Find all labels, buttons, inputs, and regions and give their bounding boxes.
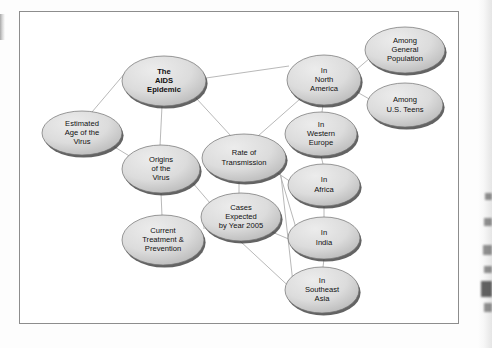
- node-label-estimated-age: Virus: [73, 137, 90, 146]
- connector-origins-of-virus-to-current-treatment: [161, 193, 162, 216]
- scan-smudge-6: [484, 303, 492, 312]
- node-label-in-southeast-asia: Asia: [315, 294, 331, 303]
- node-cases-expected[interactable]: CasesExpectedby Year 2005: [201, 193, 283, 244]
- node-label-origins-of-virus: Virus: [152, 173, 169, 182]
- node-among-us-teens[interactable]: AmongU.S. Teens: [367, 83, 445, 130]
- concept-map-canvas: TheAIDSEpidemicEstimatedAge of theVirusO…: [0, 0, 492, 348]
- node-label-in-india: In: [321, 228, 327, 237]
- node-label-cases-expected: by Year 2005: [219, 221, 263, 230]
- node-estimated-age[interactable]: EstimatedAge of theVirus: [42, 111, 124, 158]
- connector-aids-epidemic-to-rate-of-transmission: [196, 98, 231, 136]
- connector-in-north-america-to-among-general: [356, 58, 370, 70]
- node-label-estimated-age: Estimated: [65, 119, 99, 128]
- node-label-among-us-teens: Among: [393, 95, 417, 104]
- scan-edge-shadow-left: [0, 14, 5, 40]
- node-label-origins-of-virus: Origins: [149, 155, 173, 164]
- node-label-in-india: India: [316, 238, 333, 247]
- node-label-in-southeast-asia: In: [319, 276, 325, 285]
- node-in-africa[interactable]: InAfrica: [288, 164, 362, 209]
- node-label-rate-of-transmission: Rate of: [232, 148, 257, 157]
- node-label-current-treatment: Prevention: [145, 244, 181, 253]
- node-label-in-north-america: In: [321, 66, 327, 75]
- node-label-in-africa: In: [321, 175, 327, 184]
- node-in-southeast-asia[interactable]: InSoutheastAsia: [285, 267, 361, 316]
- node-in-india[interactable]: InIndia: [288, 217, 362, 262]
- node-label-in-western-europe: Europe: [309, 138, 334, 147]
- scan-smudge-2: [484, 218, 492, 226]
- node-label-in-southeast-asia: Southeast: [305, 285, 340, 294]
- node-label-estimated-age: Age of the: [65, 128, 100, 137]
- diagram-page: TheAIDSEpidemicEstimatedAge of theVirusO…: [0, 0, 492, 348]
- node-label-in-western-europe: Western: [307, 129, 335, 138]
- connector-aids-epidemic-to-origins-of-virus: [160, 106, 162, 146]
- concept-nodes: TheAIDSEpidemicEstimatedAge of theVirusO…: [42, 27, 447, 316]
- node-label-in-africa: Africa: [314, 185, 334, 194]
- node-among-general[interactable]: AmongGeneralPopulation: [365, 27, 447, 76]
- node-label-rate-of-transmission: Transmission: [222, 158, 267, 167]
- scan-smudge-1: [485, 193, 492, 200]
- node-label-aids-epidemic: Epidemic: [147, 85, 181, 94]
- node-label-cases-expected: Expected: [225, 212, 257, 221]
- node-label-in-western-europe: In: [318, 120, 324, 129]
- node-rate-of-transmission[interactable]: Rate ofTransmission: [202, 134, 288, 185]
- scan-smudge-3: [483, 245, 492, 255]
- node-aids-epidemic[interactable]: TheAIDSEpidemic: [122, 56, 208, 109]
- node-label-among-general: Population: [387, 54, 423, 63]
- node-current-treatment[interactable]: CurrentTreatment &Prevention: [122, 215, 206, 268]
- node-in-north-america[interactable]: InNorthAmerica: [287, 55, 363, 108]
- node-in-western-europe[interactable]: InWesternEurope: [285, 112, 359, 159]
- node-origins-of-virus[interactable]: Originsof theVirus: [122, 145, 202, 196]
- node-label-among-general: General: [391, 45, 418, 54]
- node-label-cases-expected: Cases: [230, 203, 252, 212]
- node-label-origins-of-virus: of the: [152, 164, 171, 173]
- node-label-aids-epidemic: AIDS: [155, 76, 173, 85]
- scan-smudge-5: [481, 281, 492, 297]
- node-label-in-north-america: America: [310, 84, 339, 93]
- node-label-in-north-america: North: [315, 75, 334, 84]
- node-label-current-treatment: Current: [150, 226, 176, 235]
- node-label-among-general: Among: [393, 36, 417, 45]
- scan-smudge-4: [484, 266, 492, 273]
- node-label-aids-epidemic: The: [157, 67, 171, 76]
- connector-aids-epidemic-to-in-north-america: [206, 66, 289, 78]
- node-label-among-us-teens: U.S. Teens: [386, 105, 423, 114]
- node-label-current-treatment: Treatment &: [142, 235, 184, 244]
